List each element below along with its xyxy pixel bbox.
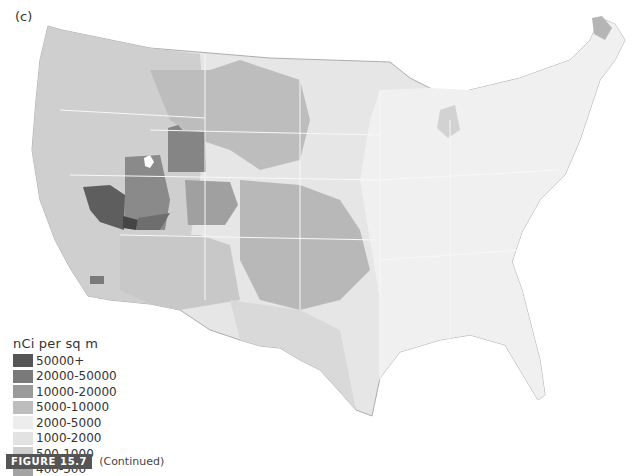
legend-swatch xyxy=(13,354,33,367)
legend-swatch xyxy=(13,401,33,414)
legend-item: 1000-2000 xyxy=(13,431,117,447)
legend-swatch xyxy=(13,385,33,398)
socal-spot xyxy=(90,276,104,284)
legend-title: nCi per sq m xyxy=(13,336,117,351)
legend-swatch xyxy=(13,432,33,445)
legend-item: 5000-10000 xyxy=(13,400,117,416)
legend-item: 20000-50000 xyxy=(13,369,117,385)
legend-label: 50000+ xyxy=(36,354,84,368)
legend-swatch xyxy=(13,370,33,383)
legend-swatch xyxy=(13,416,33,429)
figure-continued-text: (Continued) xyxy=(99,455,164,468)
legend-item: 10000-20000 xyxy=(13,384,117,400)
legend-label: 10000-20000 xyxy=(36,385,117,399)
legend-label: 5000-10000 xyxy=(36,400,109,414)
legend-label: 20000-50000 xyxy=(36,369,117,383)
legend-item: 2000-5000 xyxy=(13,415,117,431)
figure-caption: FIGURE 15.7 (Continued) xyxy=(6,454,164,469)
figure-label: FIGURE 15.7 xyxy=(6,454,92,469)
legend-item: 50000+ xyxy=(13,353,117,369)
legend-label: 1000-2000 xyxy=(36,431,101,445)
legend-label: 2000-5000 xyxy=(36,416,101,430)
wyoming-block xyxy=(168,125,206,172)
